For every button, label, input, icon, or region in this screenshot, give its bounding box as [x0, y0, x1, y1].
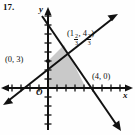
intersection-separator: , 4 [78, 29, 87, 38]
intersection-close-paren: ) [91, 29, 94, 38]
x-axis-arrow-left [1, 85, 9, 92]
origin-label: O [36, 88, 43, 97]
coordinate-plane [0, 0, 135, 135]
problem-number: 17. [3, 3, 14, 12]
figure-17: 17. y x O (0, 3) (4, 0) (123, 423) [0, 0, 135, 135]
point-label-intersection: (123, 423) [67, 29, 94, 46]
vertex-dot-0-3 [46, 59, 50, 63]
point-label-y-intercept: (0, 3) [5, 55, 23, 64]
y-axis-label: y [39, 5, 43, 14]
intersection-x-open: (1 [67, 29, 74, 38]
y-axis-arrow-up [45, 7, 52, 15]
x-axis-label: x [123, 91, 128, 100]
point-label-x-intercept: (4, 0) [92, 72, 110, 81]
